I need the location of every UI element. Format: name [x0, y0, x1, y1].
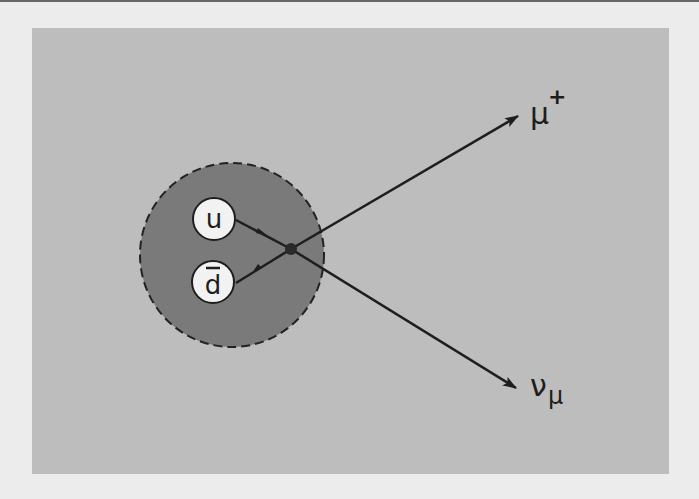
neutrino-flavor: μ [548, 382, 563, 410]
neutrino-line [291, 249, 516, 388]
muon-label: μ [530, 96, 549, 131]
quark-u-label: u [206, 204, 222, 234]
muon-charge: + [548, 84, 566, 109]
hadron-circle [140, 163, 324, 347]
decay-diagram: u d μ + ν μ [0, 0, 699, 499]
neutrino-label: ν [530, 368, 547, 403]
interaction-vertex [285, 243, 297, 255]
quark-dbar-label: d [205, 270, 222, 300]
muon-line [291, 116, 518, 249]
